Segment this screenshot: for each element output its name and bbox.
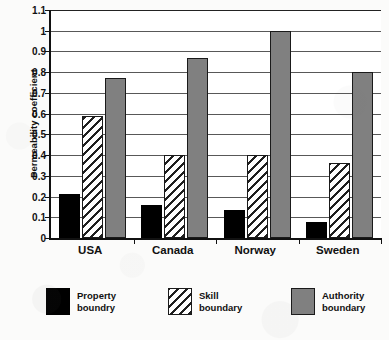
y-axis-tick-label: 0.6 (18, 108, 46, 119)
bar-group (51, 10, 134, 238)
plot-inner (51, 10, 381, 238)
x-axis-category-labels: USACanadaNorwaySweden (49, 244, 379, 262)
legend-label-skill-boundary: Skillboundary (199, 290, 242, 313)
y-axis-tick-label: 0.3 (18, 170, 46, 181)
legend-swatch-authority-boundary (291, 288, 315, 315)
y-axis-tick-label: 1.1 (18, 5, 46, 16)
y-axis-tick-labels: 00.10.20.30.40.50.60.70.80.911.1 (18, 10, 46, 238)
bar-chart: Permeability coefficient 00.10.20.30.40.… (0, 0, 389, 340)
legend-item-skill-boundary: Skillboundary (168, 288, 242, 315)
x-axis-category-label-norway: Norway (234, 244, 276, 256)
plot-area (49, 10, 381, 240)
y-axis-tick-label: 0.8 (18, 67, 46, 78)
bar-property-boundry (141, 205, 162, 238)
y-axis-tick-mark (45, 238, 51, 239)
y-axis-tick-label: 0.9 (18, 46, 46, 57)
legend-label-line2: boundary (322, 302, 365, 314)
bar-authority-boundary (270, 31, 291, 238)
bar-property-boundry (306, 222, 327, 238)
legend-swatch-property-boundry (46, 288, 70, 315)
x-axis-tick-mark (381, 238, 382, 244)
y-axis-tick-label: 0 (18, 233, 46, 244)
x-axis-category-label-sweden: Sweden (316, 244, 359, 256)
legend-swatch-skill-boundary (168, 288, 192, 315)
legend-item-authority-boundary: Authorityboundary (291, 288, 365, 315)
x-axis-category-label-canada: Canada (152, 244, 194, 256)
legend-label-line2: boundary (199, 302, 242, 314)
bar-property-boundry (59, 194, 80, 238)
bar-group (216, 10, 299, 238)
y-axis-tick-label: 0.2 (18, 191, 46, 202)
bar-authority-boundary (352, 72, 373, 238)
legend-label-property-boundry: Propertyboundry (77, 290, 116, 313)
bar-group (299, 10, 382, 238)
y-axis-tick-label: 0.5 (18, 129, 46, 140)
bar-authority-boundary (187, 58, 208, 238)
y-axis-tick-label: 0.7 (18, 87, 46, 98)
bar-skill-boundary (247, 155, 268, 238)
bar-group (134, 10, 217, 238)
legend-label-line1: Property (77, 290, 116, 302)
bar-skill-boundary (329, 163, 350, 238)
x-axis-category-label-usa: USA (78, 244, 102, 256)
legend-item-property-boundry: Propertyboundry (46, 288, 116, 315)
legend-label-line1: Authority (322, 290, 365, 302)
bar-property-boundry (224, 210, 245, 238)
legend-label-line1: Skill (199, 290, 242, 302)
y-axis-tick-label: 1 (18, 25, 46, 36)
bar-authority-boundary (105, 78, 126, 238)
legend-label-authority-boundary: Authorityboundary (322, 290, 365, 313)
bar-skill-boundary (164, 155, 185, 238)
y-axis-tick-label: 0.4 (18, 150, 46, 161)
bar-skill-boundary (82, 116, 103, 238)
y-axis-tick-label: 0.1 (18, 212, 46, 223)
legend-label-line2: boundry (77, 302, 116, 314)
chart-legend: PropertyboundrySkillboundaryAuthoritybou… (46, 288, 386, 330)
